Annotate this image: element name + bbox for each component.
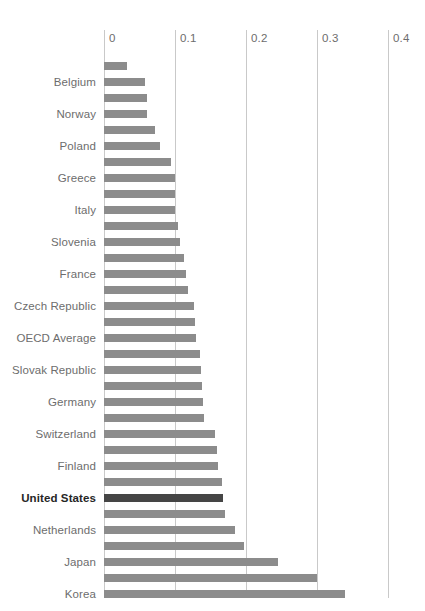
category-label-slovak-republic: Slovak Republic [12, 362, 96, 378]
bar [104, 318, 195, 326]
bar [104, 510, 225, 518]
bar [104, 446, 217, 454]
bar-row [0, 346, 425, 362]
bar-netherlands [104, 526, 235, 534]
bar-row [0, 122, 425, 138]
category-label-italy: Italy [74, 202, 96, 218]
bar [104, 414, 204, 422]
bar-row [0, 58, 425, 74]
bar-norway [104, 110, 147, 118]
bar [104, 254, 184, 262]
bar-france [104, 270, 186, 278]
bar-switzerland [104, 430, 215, 438]
bar [104, 350, 200, 358]
bar-row: Greece [0, 170, 425, 186]
bar-row [0, 186, 425, 202]
bar-germany [104, 398, 203, 406]
bar-row [0, 378, 425, 394]
x-tick-label-0.4: 0.4 [393, 32, 410, 44]
bar-slovenia [104, 238, 180, 246]
bar-row: OECD Average [0, 330, 425, 346]
category-label-korea: Korea [65, 586, 96, 602]
bar-row [0, 218, 425, 234]
bar-row: Slovenia [0, 234, 425, 250]
category-label-netherlands: Netherlands [33, 522, 96, 538]
bar-row [0, 570, 425, 586]
bar-row: Italy [0, 202, 425, 218]
bar-oecd-average [104, 334, 196, 342]
bar-slovak-republic [104, 366, 201, 374]
bar-row: Belgium [0, 74, 425, 90]
bar-row [0, 442, 425, 458]
bar-row: France [0, 266, 425, 282]
bar [104, 286, 188, 294]
category-label-united-states: United States [21, 490, 96, 506]
bar-row [0, 410, 425, 426]
bar [104, 158, 171, 166]
bar [104, 190, 175, 198]
bar-row [0, 154, 425, 170]
bar-row: Japan [0, 554, 425, 570]
bar-row: Switzerland [0, 426, 425, 442]
bar-row [0, 474, 425, 490]
category-label-france: France [60, 266, 96, 282]
category-label-oecd-average: OECD Average [16, 330, 96, 346]
bar-row: Korea [0, 586, 425, 602]
bar [104, 94, 147, 102]
bar-row [0, 538, 425, 554]
bar [104, 62, 127, 70]
bar-row: Slovak Republic [0, 362, 425, 378]
bar-row [0, 314, 425, 330]
bar-row: Poland [0, 138, 425, 154]
bar-row: Norway [0, 106, 425, 122]
bar-belgium [104, 78, 145, 86]
bar-korea [104, 590, 345, 598]
category-label-germany: Germany [48, 394, 96, 410]
category-label-poland: Poland [60, 138, 96, 154]
bar-poland [104, 142, 160, 150]
category-label-finland: Finland [58, 458, 96, 474]
bar-row: Czech Republic [0, 298, 425, 314]
bar-row [0, 282, 425, 298]
bar-row: Germany [0, 394, 425, 410]
category-label-japan: Japan [64, 554, 96, 570]
bar-row: Netherlands [0, 522, 425, 538]
bar-row [0, 250, 425, 266]
bar [104, 382, 202, 390]
category-label-belgium: Belgium [54, 74, 96, 90]
category-label-norway: Norway [56, 106, 96, 122]
category-label-switzerland: Switzerland [35, 426, 96, 442]
bar-czech-republic [104, 302, 194, 310]
bar-united-states [104, 494, 223, 502]
category-label-greece: Greece [58, 170, 96, 186]
bar-row: Finland [0, 458, 425, 474]
bar-chart: 00.10.20.30.4 BelgiumNorwayPolandGreeceI… [0, 0, 425, 611]
category-label-slovenia: Slovenia [51, 234, 96, 250]
bar-greece [104, 174, 175, 182]
bar [104, 478, 222, 486]
bar [104, 126, 155, 134]
bar-japan [104, 558, 278, 566]
bar-row [0, 506, 425, 522]
bar [104, 574, 317, 582]
bar-row [0, 90, 425, 106]
bar [104, 542, 244, 550]
bar [104, 222, 178, 230]
category-label-czech-republic: Czech Republic [14, 298, 96, 314]
bar-italy [104, 206, 175, 214]
bar-finland [104, 462, 218, 470]
bar-row: United States [0, 490, 425, 506]
